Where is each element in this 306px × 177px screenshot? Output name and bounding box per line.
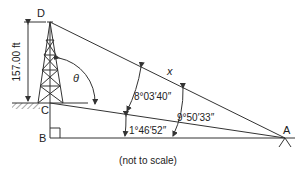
height-label: 157.00 ft xyxy=(11,42,22,81)
theta-label: θ xyxy=(73,72,79,84)
arc-angle-CAB xyxy=(125,116,126,136)
right-angle-marker xyxy=(50,128,60,138)
point-b-label: B xyxy=(39,132,46,144)
point-a-marker xyxy=(279,138,291,147)
point-d-label: D xyxy=(37,7,45,19)
angle-DAC-label: 8°03′40″ xyxy=(134,91,172,102)
point-a-label: A xyxy=(283,124,291,136)
unknown-x-label: x xyxy=(166,65,173,77)
height-dimension: 157.00 ft xyxy=(11,22,46,101)
point-c-label: C xyxy=(41,104,49,116)
tower-icon xyxy=(38,22,63,103)
angle-CAB-label: 1°46′52″ xyxy=(129,125,167,136)
arc-angle-DAC xyxy=(127,67,141,111)
not-to-scale-note: (not to scale) xyxy=(119,155,177,166)
angle-DAB-label: 9°50′33″ xyxy=(177,112,215,123)
tower-survey-diagram: 157.00 ft θ 8°03′40″ 1°46′52″ 9°50′33″ x… xyxy=(0,0,306,177)
